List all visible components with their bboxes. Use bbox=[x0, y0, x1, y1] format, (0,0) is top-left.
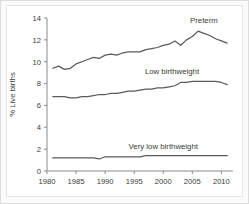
chart-figure: 024681012141980198519901995200020052010%… bbox=[0, 0, 249, 204]
line-chart-plot: 024681012141980198519901995200020052010%… bbox=[1, 1, 249, 204]
x-axis-tick-label: 1995 bbox=[126, 177, 143, 186]
y-axis-tick-label: 10 bbox=[33, 58, 41, 67]
x-axis-tick-label: 2005 bbox=[184, 177, 201, 186]
series-line-preterm bbox=[53, 31, 227, 69]
y-axis-tick-label: 0 bbox=[37, 167, 41, 176]
series-label-preterm: Preterm bbox=[190, 16, 218, 25]
x-axis-tick-label: 1990 bbox=[97, 177, 114, 186]
y-axis-tick-label: 4 bbox=[37, 123, 41, 132]
series-label-very-low-birthweight: Very low birthweight bbox=[129, 142, 199, 151]
y-axis-tick-label: 6 bbox=[37, 101, 41, 110]
series-line-low-birthweight bbox=[53, 81, 227, 97]
y-axis-tick-label: 2 bbox=[37, 145, 41, 154]
series-label-low-birthweight: Low birthweight bbox=[145, 67, 200, 76]
x-axis-tick-label: 1980 bbox=[39, 177, 56, 186]
y-axis-title: % Live births bbox=[8, 72, 17, 117]
y-axis-tick-label: 8 bbox=[37, 79, 41, 88]
x-axis-tick-label: 1985 bbox=[68, 177, 85, 186]
y-axis-tick-label: 14 bbox=[33, 14, 41, 23]
y-axis-tick-label: 12 bbox=[33, 36, 41, 45]
series-line-very-low-birthweight bbox=[53, 156, 227, 159]
x-axis-tick-label: 2010 bbox=[213, 177, 230, 186]
x-axis-tick-label: 2000 bbox=[155, 177, 172, 186]
